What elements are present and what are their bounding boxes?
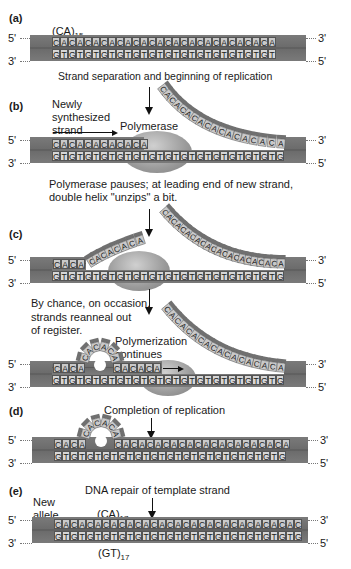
dotted-extension	[308, 543, 318, 544]
nucleotide-g: G	[230, 531, 238, 541]
arrow-down-icon	[152, 498, 153, 513]
bottom-strand-e: GTGTGTGTGTGTGTGTGTGTGTGTGTGTGTG	[54, 531, 302, 542]
nucleotide-t: T	[110, 531, 118, 541]
panel-label-e: (e)	[9, 485, 22, 497]
nucleotide-g: G	[118, 531, 126, 541]
nucleotide-g: G	[182, 531, 190, 541]
nucleotide-c: C	[134, 519, 142, 529]
nucleotide-t: T	[94, 531, 102, 541]
five-prime-label: 5'	[8, 514, 16, 526]
nucleotide-g: G	[70, 531, 78, 541]
nucleotide-t: T	[254, 531, 262, 541]
nucleotide-a: A	[126, 519, 134, 529]
nucleotide-t: T	[206, 531, 214, 541]
five-prime-label: 5'	[320, 457, 328, 469]
nucleotide-c: C	[150, 519, 158, 529]
nucleotide-c: C	[166, 519, 174, 529]
nucleotide-c: C	[54, 519, 62, 529]
nucleotide-a: A	[142, 519, 150, 529]
nucleotide-g: G	[134, 531, 142, 541]
three-prime-label: 3'	[320, 434, 328, 446]
nucleotide-t: T	[78, 531, 86, 541]
nucleotide-g: G	[86, 531, 94, 541]
nucleotide-a: A	[78, 519, 86, 529]
nucleotide-a: A	[94, 519, 102, 529]
nucleotide-c: C	[198, 519, 206, 529]
nucleotide-g: G	[166, 531, 174, 541]
dotted-extension	[308, 440, 318, 441]
nucleotide-a: A	[110, 519, 118, 529]
nucleotide-a: A	[206, 519, 214, 529]
three-prime-label: 3'	[320, 514, 328, 526]
nucleotide-t: T	[222, 531, 230, 541]
nucleotide-a: A	[62, 519, 70, 529]
nucleotide-c: C	[70, 519, 78, 529]
nucleotide-a: A	[222, 519, 230, 529]
nucleotide-c: C	[262, 519, 270, 529]
nucleotide-a: A	[158, 519, 166, 529]
nucleotide-t: T	[142, 531, 150, 541]
nucleotide-t: T	[62, 531, 70, 541]
nucleotide-a: A	[190, 519, 198, 529]
nucleotide-g: G	[102, 531, 110, 541]
nucleotide-c: C	[214, 519, 222, 529]
dotted-extension	[308, 463, 318, 464]
nucleotide-t: T	[174, 531, 182, 541]
nucleotide-a: A	[174, 519, 182, 529]
nucleotide-c: C	[86, 519, 94, 529]
nucleotide-g: G	[198, 531, 206, 541]
repeat-label-bottom-e: (GT)17	[98, 547, 130, 564]
nucleotide-c: C	[118, 519, 126, 529]
nucleotide-t: T	[126, 531, 134, 541]
nucleotide-t: T	[270, 531, 278, 541]
nucleotide-a: A	[270, 519, 278, 529]
nucleotide-g: G	[262, 531, 270, 541]
nucleotide-a: A	[286, 519, 294, 529]
five-prime-label: 5'	[320, 537, 328, 549]
nucleotide-g: G	[294, 531, 302, 541]
nucleotide-g: G	[54, 531, 62, 541]
nucleotide-c: C	[278, 519, 286, 529]
dotted-extension	[20, 543, 32, 544]
nucleotide-c: C	[182, 519, 190, 529]
nucleotide-c: C	[246, 519, 254, 529]
dotted-extension	[20, 520, 32, 521]
nucleotide-g: G	[214, 531, 222, 541]
nucleotide-g: G	[150, 531, 158, 541]
three-prime-label: 3'	[8, 537, 16, 549]
nucleotide-t: T	[238, 531, 246, 541]
nucleotide-t: T	[158, 531, 166, 541]
nucleotide-c: C	[102, 519, 110, 529]
nucleotide-a: A	[238, 519, 246, 529]
nucleotide-g: G	[278, 531, 286, 541]
nucleotide-t: T	[190, 531, 198, 541]
top-strand-e: CACACACACACACACACACACACACACACAC	[54, 519, 302, 530]
dotted-extension	[308, 520, 318, 521]
caption-dna-repair: DNA repair of template strand	[85, 484, 230, 496]
nucleotide-g: G	[246, 531, 254, 541]
nucleotide-a: A	[254, 519, 262, 529]
nucleotide-c: C	[230, 519, 238, 529]
nucleotide-t: T	[286, 531, 294, 541]
nucleotide-c: C	[294, 519, 302, 529]
